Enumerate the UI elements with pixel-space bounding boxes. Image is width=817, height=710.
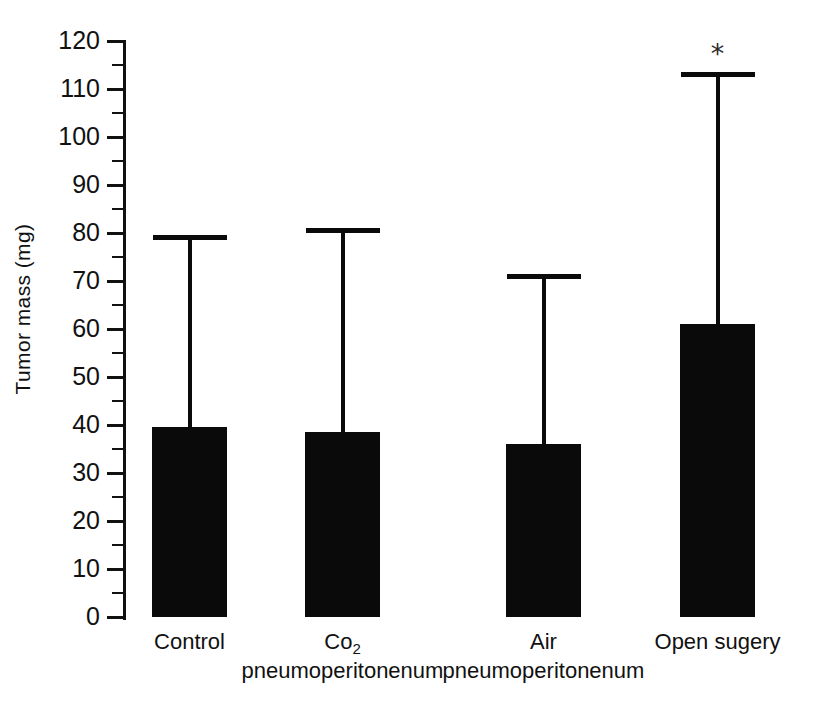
y-tick-minor (112, 160, 123, 162)
category-label-line1-text: Air (530, 629, 557, 654)
y-tick-major (107, 568, 123, 571)
y-tick-minor (112, 544, 123, 546)
y-tick-minor (112, 256, 123, 258)
category-label-line1-text: Co (324, 629, 352, 654)
y-tick-major (107, 616, 123, 619)
y-tick-major (107, 232, 123, 235)
error-bar-cap (306, 228, 380, 233)
error-bar-cap (507, 274, 581, 279)
bar-chart-figure: Tumor mass (mg) 120110100908070605040302… (0, 0, 817, 710)
y-tick-minor (112, 592, 123, 594)
y-tick-major (107, 40, 123, 43)
y-tick-label: 10 (38, 556, 100, 581)
y-tick-major (107, 88, 123, 91)
y-tick-label: 40 (38, 412, 100, 437)
bar[interactable] (506, 444, 581, 617)
bar[interactable] (305, 432, 380, 617)
significance-asterisk: * (698, 44, 738, 64)
y-tick-label: 60 (38, 316, 100, 341)
y-tick-minor (112, 304, 123, 306)
bar[interactable] (152, 427, 227, 617)
y-tick-minor (112, 208, 123, 210)
y-tick-major (107, 280, 123, 283)
y-tick-label: 100 (38, 124, 100, 149)
y-tick-major (107, 424, 123, 427)
category-label-line2: pneumoperitonenum (414, 657, 674, 685)
y-tick-label: 50 (38, 364, 100, 389)
y-tick-major (107, 520, 123, 523)
bar[interactable] (680, 324, 755, 617)
y-tick-minor (112, 448, 123, 450)
y-tick-minor (112, 112, 123, 114)
y-tick-minor (112, 496, 123, 498)
error-bar-cap (153, 235, 227, 240)
y-tick-major (107, 472, 123, 475)
y-tick-major (107, 376, 123, 379)
y-tick-major (107, 328, 123, 331)
y-tick-major (107, 184, 123, 187)
y-tick-label: 0 (38, 604, 100, 629)
y-axis-title-text: Tumor mass (mg) (11, 223, 35, 394)
y-tick-label: 110 (38, 76, 100, 101)
y-tick-label: 20 (38, 508, 100, 533)
category-label-line1: Open sugery (588, 628, 817, 656)
y-tick-label: 90 (38, 172, 100, 197)
category-label-line1-text: Open sugery (655, 629, 781, 654)
y-tick-minor (112, 352, 123, 354)
y-tick-label: 30 (38, 460, 100, 485)
y-tick-label: 120 (38, 28, 100, 53)
y-tick-minor (112, 64, 123, 66)
category-label-subscript: 2 (352, 640, 360, 657)
error-bar-cap (681, 72, 755, 77)
y-axis-spine (123, 40, 126, 620)
y-tick-label: 80 (38, 220, 100, 245)
y-tick-label: 70 (38, 268, 100, 293)
y-tick-major (107, 136, 123, 139)
y-tick-minor (112, 400, 123, 402)
